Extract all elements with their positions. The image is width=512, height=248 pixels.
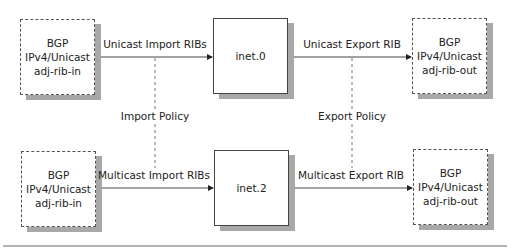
top-adj-rib-in-box: BGP IPv4/Unicast adj-rib-in xyxy=(20,19,95,95)
box-line: BGP xyxy=(25,36,90,50)
bottom-adj-rib-in-box: BGP IPv4/Unicast adj-rib-in xyxy=(21,151,96,227)
unicast-export-label: Unicast Export RIB xyxy=(303,38,401,50)
import-policy-label: Import Policy xyxy=(121,110,189,122)
box-line: BGP xyxy=(417,35,482,49)
box-line: IPv4/Unicast xyxy=(26,182,91,196)
inet2-box: inet.2 xyxy=(214,150,289,226)
inet0-label: inet.0 xyxy=(235,49,265,63)
bottom-adj-rib-out-box: BGP IPv4/Unicast adj-rib-out xyxy=(413,149,488,225)
multicast-import-label: Multicast Import RIBs xyxy=(98,169,210,181)
box-line: adj-rib-in xyxy=(26,196,91,210)
box-line: BGP xyxy=(418,166,483,180)
box-line: IPv4/Unicast xyxy=(417,49,482,63)
top-adj-rib-out-box: BGP IPv4/Unicast adj-rib-out xyxy=(412,18,487,94)
inet2-label: inet.2 xyxy=(236,181,266,195)
box-line: adj-rib-out xyxy=(418,194,483,208)
export-policy-label: Export Policy xyxy=(318,110,386,122)
box-line: BGP xyxy=(26,168,91,182)
box-line: IPv4/Unicast xyxy=(25,50,90,64)
box-line: adj-rib-out xyxy=(417,63,482,77)
box-line: IPv4/Unicast xyxy=(418,180,483,194)
box-line: adj-rib-in xyxy=(25,64,90,78)
unicast-import-label: Unicast Import RIBs xyxy=(103,38,207,50)
inet0-box: inet.0 xyxy=(213,18,288,94)
multicast-export-label: Multicast Export RIB xyxy=(298,169,404,181)
